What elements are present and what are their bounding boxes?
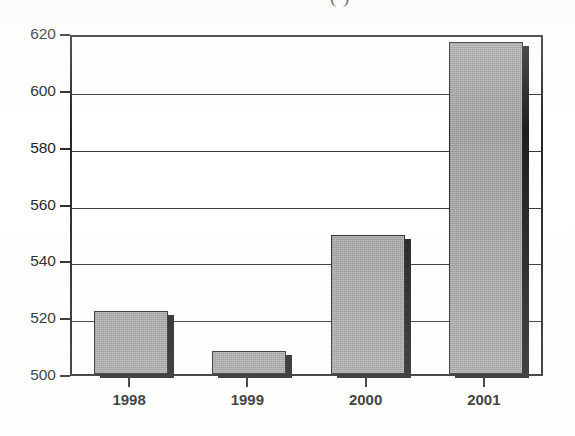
y-axis-tick-mark [60, 148, 70, 150]
bar [212, 351, 286, 374]
y-axis-tick-mark [60, 205, 70, 207]
plot-area [70, 35, 543, 376]
bar [331, 235, 405, 374]
y-axis-tick-mark [60, 318, 70, 320]
y-axis-tick-label: 580 [0, 139, 56, 157]
x-axis-tick-label: 2000 [326, 391, 406, 408]
x-axis-tick-mark [128, 376, 130, 387]
y-axis-tick-label: 560 [0, 196, 56, 214]
x-axis-tick-label: 1998 [89, 391, 169, 408]
bar [449, 42, 523, 374]
x-axis-tick-mark [246, 376, 248, 387]
x-axis-tick-mark [365, 376, 367, 387]
x-axis-tick-label: 2001 [444, 391, 524, 408]
y-axis-tick-label: 540 [0, 252, 56, 270]
y-axis-tick-mark [60, 34, 70, 36]
y-axis-tick-mark [60, 91, 70, 93]
y-axis-tick-label: 620 [0, 25, 56, 43]
y-axis-tick-mark [60, 375, 70, 377]
x-axis-tick-mark [483, 376, 485, 387]
bar-body [331, 235, 405, 374]
y-axis-tick-label: 520 [0, 309, 56, 327]
bar-body [94, 311, 168, 374]
y-axis-tick-label: 500 [0, 366, 56, 384]
y-axis-tick-label: 600 [0, 82, 56, 100]
bar [94, 311, 168, 374]
bar-body [449, 42, 523, 374]
truncated-caption: ( ) [330, 0, 530, 12]
x-axis-tick-label: 1999 [207, 391, 287, 408]
bar-body [212, 351, 286, 374]
y-axis-tick-mark [60, 261, 70, 263]
bar-chart-figure: ( ) 500520540560580600620 19981999200020… [0, 0, 575, 436]
